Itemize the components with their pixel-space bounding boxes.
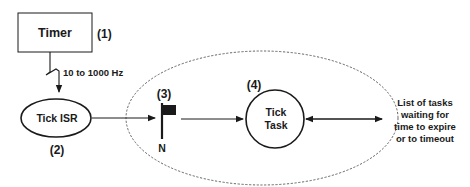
task-list-description: List of tasks waiting for time to expire… xyxy=(394,97,456,144)
semaphore-number: (3) xyxy=(157,87,172,101)
tick-isr-block: Tick ISR (2) xyxy=(21,99,91,157)
timer-label: Timer xyxy=(38,26,72,40)
tick-task-block: Tick Task (4) xyxy=(246,78,304,148)
semaphore-count-label: N xyxy=(158,142,166,154)
tick-task-number: (4) xyxy=(247,78,262,92)
interrupt-arrow: 10 to 1000 Hz xyxy=(46,52,123,92)
timer-block: Timer (1) xyxy=(18,13,112,52)
tick-task-label-line1: Tick xyxy=(266,106,287,118)
task-list-line4: or to timeout xyxy=(396,133,455,144)
semaphore-flag-icon: (3) N xyxy=(157,87,176,154)
diagram-canvas: Timer (1) 10 to 1000 Hz Tick ISR (2) (3)… xyxy=(0,0,470,187)
timer-number: (1) xyxy=(97,27,112,41)
task-list-line2: waiting for xyxy=(400,109,449,120)
frequency-label: 10 to 1000 Hz xyxy=(63,67,123,78)
task-list-line1: List of tasks xyxy=(397,97,452,108)
tick-isr-number: (2) xyxy=(50,143,65,157)
task-list-line3: time to expire xyxy=(394,121,456,132)
tick-isr-label: Tick ISR xyxy=(36,112,78,124)
tick-task-label-line2: Task xyxy=(264,119,287,131)
